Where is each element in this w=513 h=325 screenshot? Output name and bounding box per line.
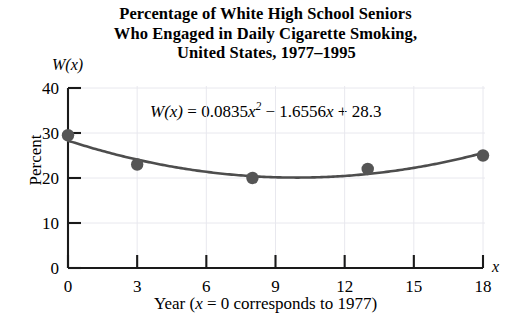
plot-area: 0102030400369121518 [0,0,513,325]
x-axis-tick-label: 18 [475,277,492,296]
chart-figure: Percentage of White High School Seniors … [0,0,513,325]
y-axis-tick-label: 40 [42,79,59,98]
x-axis-tick-label: 12 [336,277,353,296]
y-axis-tick-label: 20 [42,169,59,188]
y-axis-tick-label: 10 [42,214,59,233]
x-axis-tick-label: 3 [133,277,142,296]
x-axis-tick-label: 9 [271,277,280,296]
x-axis-tick-label: 15 [405,277,422,296]
data-point [62,129,74,141]
data-point [477,149,489,161]
x-axis-tick-label: 6 [202,277,211,296]
axis-tick-labels-group: 0102030400369121518 [42,79,492,296]
x-axis-tick-label: 0 [64,277,73,296]
data-point [131,158,143,170]
data-point [362,163,374,175]
y-axis-tick-label: 30 [42,124,59,143]
data-point [246,172,258,184]
y-axis-tick-label: 0 [51,259,60,278]
